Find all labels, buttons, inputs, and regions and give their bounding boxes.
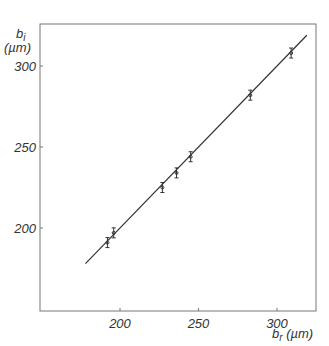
chart: 200250300200250300 bi(µm)br (µm) xyxy=(0,0,329,346)
x-tick-label: 200 xyxy=(108,316,131,331)
x-tick-label: 250 xyxy=(187,316,210,331)
y-tick-label: 200 xyxy=(13,221,36,236)
x-axis-label: br (µm) xyxy=(272,326,313,343)
data-point xyxy=(175,168,179,178)
fit-line xyxy=(85,35,306,263)
y-tick-label: 300 xyxy=(14,59,36,74)
y-axis-unit: (µm) xyxy=(4,40,31,55)
y-tick-label: 250 xyxy=(13,140,36,155)
data-point xyxy=(160,183,164,193)
